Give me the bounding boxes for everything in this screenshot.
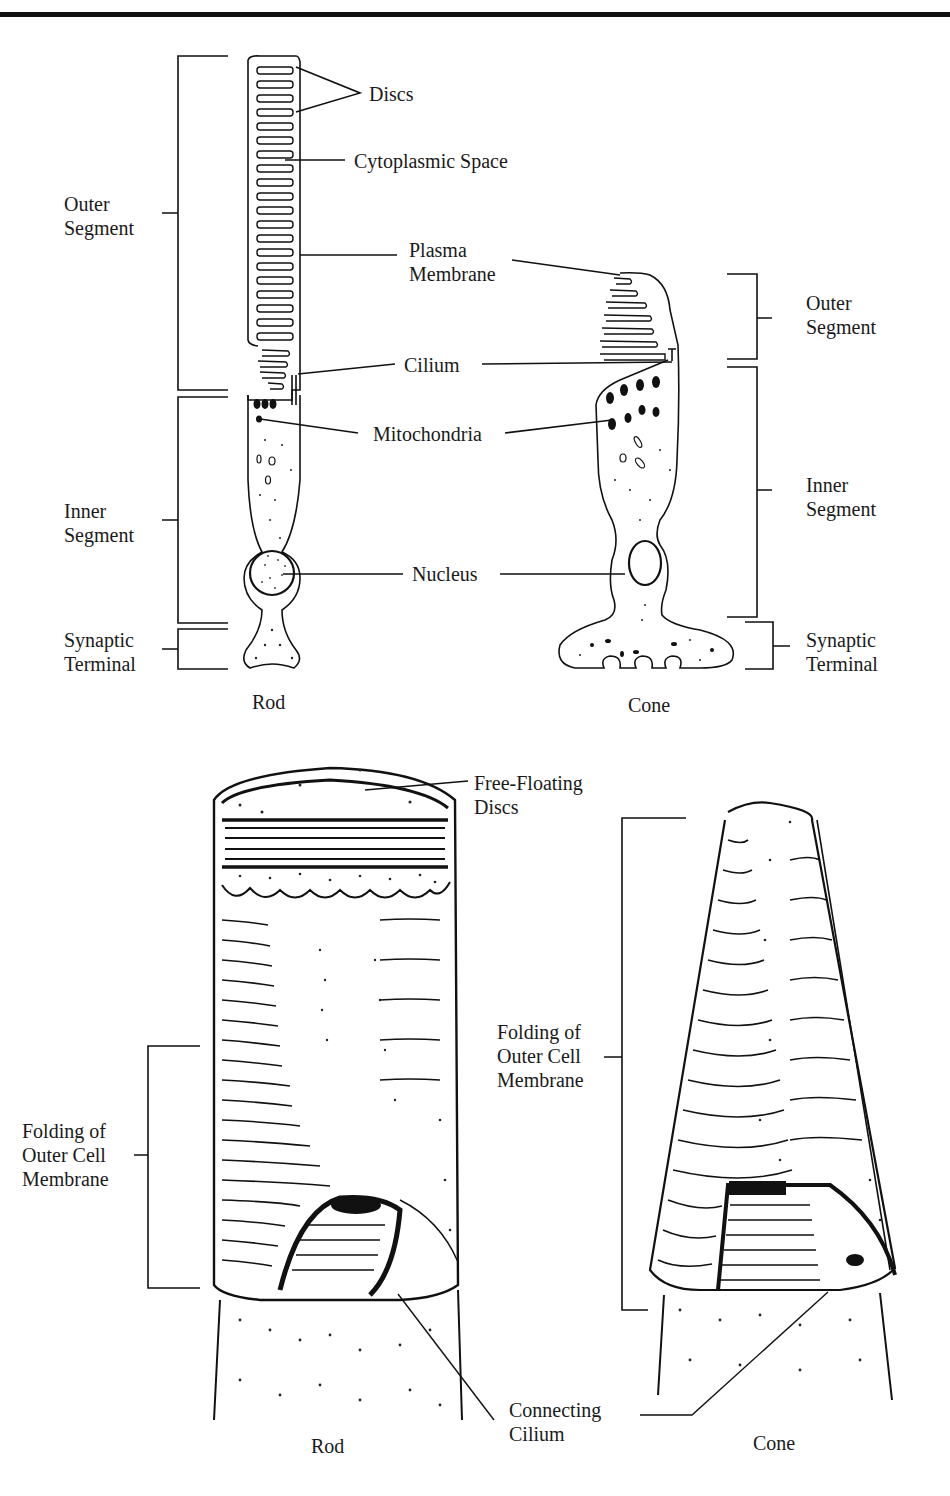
cone-folding-outer-membrane-label: Folding of Outer Cell Membrane [497,1020,584,1092]
photoreceptor-diagram [0,0,950,1496]
bottom-rod-caption: Rod [311,1434,344,1458]
mitochondria-label: Mitochondria [373,422,482,446]
cone-inner-segment-label: Inner Segment [806,473,876,521]
rod-cell-drawing [244,56,300,668]
rod-folding-outer-membrane-label: Folding of Outer Cell Membrane [22,1119,109,1191]
cone-synaptic-terminal-label: Synaptic Terminal [806,628,878,676]
cilium-label: Cilium [404,353,460,377]
top-cone-caption: Cone [628,693,670,717]
top-rod-caption: Rod [252,690,285,714]
connecting-cilium-label: Connecting Cilium [509,1398,601,1446]
rod-synaptic-terminal-label: Synaptic Terminal [64,628,136,676]
cone-3d-drawing [650,802,895,1400]
rod-outer-segment-label: Outer Segment [64,192,134,240]
nucleus-label: Nucleus [412,562,478,586]
rod-3d-drawing [214,768,462,1420]
rod-inner-segment-label: Inner Segment [64,499,134,547]
free-floating-discs-label: Free-Floating Discs [474,771,583,819]
cytoplasmic-space-label: Cytoplasmic Space [354,149,508,173]
cone-cell-drawing [559,273,733,668]
discs-label: Discs [369,82,413,106]
plasma-membrane-label: Plasma Membrane [409,238,496,286]
cone-outer-segment-label: Outer Segment [806,291,876,339]
bottom-cone-caption: Cone [753,1431,795,1455]
